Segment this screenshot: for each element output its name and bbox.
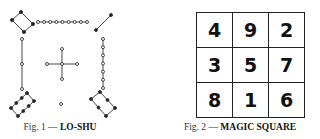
group-2-filled-dots [95,14,113,32]
grid-row: 8 1 6 [197,83,305,118]
group-3-open-dots [21,38,24,91]
figure-1-caption: Fig. 1 — LO-SHU [0,122,120,132]
grid-cell: 7 [269,48,305,83]
magic-square-grid: 4 9 2 3 5 7 8 1 6 [196,12,305,118]
caption-prefix: Fig. 2 — [184,122,218,132]
magic-square-figure: 4 9 2 3 5 7 8 1 6 Fig. 2 — MAGIC SQUARE [160,0,320,139]
group-9-open-dots [37,21,89,24]
group-5-open-dots [46,48,79,81]
group-6-filled-dots [90,91,117,118]
grid-cell: 3 [197,48,233,83]
group-7-open-dots [102,38,105,90]
grid-cell: 8 [197,83,233,118]
group-8-filled-dots [10,92,36,118]
lo-shu-diagram [0,0,160,139]
grid-cell: 4 [197,13,233,48]
group-1-open-dot [60,103,63,106]
caption-title: MAGIC SQUARE [220,122,296,132]
grid-cell: 1 [233,83,269,118]
caption-prefix: Fig. 1 — [24,122,58,132]
grid-row: 3 5 7 [197,48,305,83]
caption-title: LO-SHU [60,122,96,132]
lo-shu-figure: Fig. 1 — LO-SHU [0,0,160,139]
figure-2-caption: Fig. 2 — MAGIC SQUARE [160,122,320,132]
grid-cell: 9 [233,13,269,48]
grid-row: 4 9 2 [197,13,305,48]
grid-cell: 5 [233,48,269,83]
grid-cell: 6 [269,83,305,118]
grid-cell: 2 [269,13,305,48]
group-4-filled-dots [10,10,34,33]
